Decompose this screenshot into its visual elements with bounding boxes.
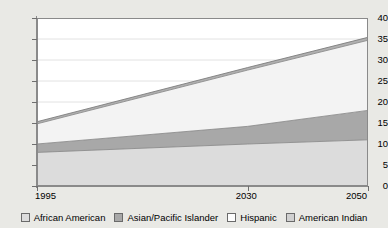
y-tick-mark <box>32 60 37 61</box>
stacked-area-svg <box>37 18 368 186</box>
y-tick-label: 30 <box>362 55 388 65</box>
y-tick-label: 35 <box>362 34 388 44</box>
y-tick-mark <box>32 144 37 145</box>
y-tick-mark <box>32 18 37 19</box>
y-tick-mark <box>32 81 37 82</box>
plot-area <box>37 18 368 186</box>
y-tick-label: 25 <box>362 76 388 86</box>
legend-label: Hispanic <box>240 212 276 223</box>
chart-legend: African AmericanAsian/Pacific IslanderHi… <box>0 209 388 226</box>
y-tick-label: 20 <box>362 97 388 107</box>
y-tick-label: 5 <box>362 160 388 170</box>
legend-label: American Indian <box>299 212 368 223</box>
legend-item[interactable]: African American <box>21 212 106 223</box>
legend-label: African American <box>34 212 106 223</box>
y-tick-label: 15 <box>362 118 388 128</box>
legend-label: Asian/Pacific Islander <box>127 212 218 223</box>
legend-item[interactable]: Asian/Pacific Islander <box>114 212 218 223</box>
legend-item[interactable]: Hispanic <box>227 212 276 223</box>
legend-swatch-icon <box>114 213 123 222</box>
x-tick-mark <box>368 186 369 191</box>
y-tick-label: 10 <box>362 139 388 149</box>
legend-swatch-icon <box>21 213 30 222</box>
x-tick-label: 2030 <box>236 190 257 201</box>
y-tick-mark <box>32 39 37 40</box>
legend-swatch-icon <box>227 213 236 222</box>
legend-swatch-icon <box>286 213 295 222</box>
x-tick-label: 2050 <box>346 190 367 201</box>
y-tick-label: 40 <box>362 13 388 23</box>
chart-figure: 4035302520151050 199520302050 African Am… <box>0 0 388 228</box>
y-tick-mark <box>32 123 37 124</box>
y-tick-mark <box>32 165 37 166</box>
legend-item[interactable]: American Indian <box>286 212 368 223</box>
x-axis-line <box>36 186 369 187</box>
x-tick-label: 1995 <box>35 190 56 201</box>
y-tick-mark <box>32 102 37 103</box>
